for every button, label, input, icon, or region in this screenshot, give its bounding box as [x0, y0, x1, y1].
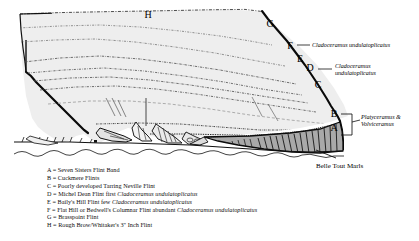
annot-F-species: Cladoceramus undulatoplicatus [312, 42, 391, 48]
legend-sep-E: = [51, 198, 58, 205]
legend-text-G: Brasspoint Flint [58, 213, 98, 220]
marker-B: B [331, 108, 338, 119]
marker-E: E [297, 53, 303, 64]
legend-sep-C: = [51, 182, 58, 189]
legend-item-D: D = Michel Dean Flint first Cladoceramus… [47, 190, 387, 198]
legend-item-B: B = Cuckmere Flints [47, 174, 387, 182]
marker-C: C [315, 79, 322, 90]
legend-item-C: C = Poorly developed Tarring Neville Fli… [47, 182, 387, 190]
annot-D-species-line2: undulatoplicatus [335, 70, 377, 76]
marker-G: G [266, 18, 273, 29]
legend-text-B: Cuckmere Flints [58, 174, 100, 181]
legend-text-E: Baily's Hill Flint few [58, 198, 112, 205]
marker-H: H [144, 9, 151, 20]
legend-text-D: Michel Dean Flint first [58, 190, 117, 197]
leader-line-AB [352, 120, 360, 122]
legend-text-H: Rough Brow/Whitaker's 3" Inch Flint [58, 221, 152, 228]
legend-text-C: Poorly developed Tarring Neville Flint [58, 182, 155, 189]
legend-species-D: Cladoceramus undulatoplicatus [117, 190, 197, 197]
cliff-cross-section-figure: H G F E D C B A Cladoceramus undulatopli… [0, 0, 419, 241]
legend-item-A: A = Seven Sisters Flint Band [47, 166, 387, 174]
marker-A: A [330, 122, 338, 133]
legend-text-A: Seven Sisters Flint Band [58, 166, 120, 173]
legend-item-H: H = Rough Brow/Whitaker's 3" Inch Flint [47, 221, 387, 229]
legend-list: A = Seven Sisters Flint Band B = Cuckmer… [47, 166, 387, 229]
legend-species-E: Cladoceramus undulatoplicatus [112, 198, 192, 205]
legend-sep-A: = [51, 166, 58, 173]
annot-AB-line1: Platyceramus & [360, 114, 401, 120]
legend-item-G: G = Brasspoint Flint [47, 213, 387, 221]
annot-D-species-line1: Cladoceramus [335, 63, 371, 69]
legend-sep-B: = [51, 174, 58, 181]
marker-D: D [306, 62, 313, 73]
annot-AB-line2: Volviceramus [361, 121, 394, 127]
legend-species-F: Cladoceramus undulatoplicatus [177, 206, 257, 213]
legend-text-F: Flat Hill or Bedwell's Columnar Flint ab… [57, 206, 177, 213]
marker-F: F [287, 40, 293, 51]
legend-item-F: F = Flat Hill or Bedwell's Columnar Flin… [47, 206, 387, 214]
legend-item-E: E = Baily's Hill Flint few Cladoceramus … [47, 198, 387, 206]
